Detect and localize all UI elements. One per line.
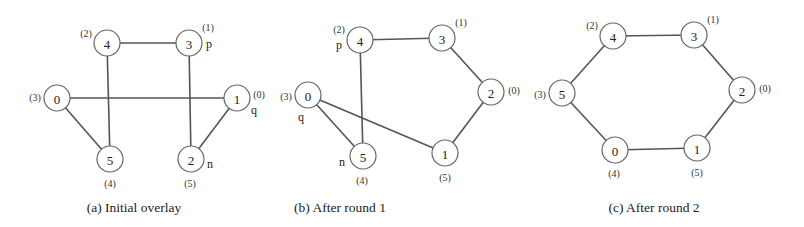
role-label: p [336, 38, 342, 52]
rank-label: (2) [333, 24, 345, 36]
node-id-label: 4 [610, 30, 617, 45]
node-id-label: 3 [439, 32, 446, 47]
node-id-label: 4 [104, 37, 111, 52]
node-id-label: 4 [357, 34, 364, 49]
overlay-diagram: 0(3)1(0)q2(5)n3(1)p4(2)5(4)(a) Initial o… [0, 0, 804, 227]
node-0: 0(3)q [280, 82, 321, 124]
node-1: 1(5) [432, 140, 458, 184]
node-2: 2(0) [729, 77, 771, 103]
rank-label: (4) [356, 175, 368, 187]
rank-label: (1) [202, 22, 214, 34]
panel-a: 0(3)1(0)q2(5)n3(1)p4(2)5(4)(a) Initial o… [29, 22, 265, 215]
node-0: 0(3) [29, 85, 70, 111]
rank-label: (1) [707, 14, 719, 26]
rank-label: (5) [184, 178, 196, 190]
panel-b: 0(3)q1(5)2(0)3(1)4(2)p5(4)n(b) After rou… [280, 17, 520, 215]
node-id-label: 0 [54, 92, 61, 107]
rank-label: (0) [253, 89, 265, 101]
node-id-label: 1 [234, 92, 241, 107]
role-label: n [207, 157, 213, 171]
node-5: 5(3) [534, 80, 575, 106]
edge-0-1 [308, 95, 445, 153]
rank-label: (5) [691, 167, 703, 179]
role-label: q [251, 103, 257, 117]
panel-caption: (a) Initial overlay [87, 200, 182, 215]
rank-label: (5) [439, 172, 451, 184]
rank-label: (3) [534, 89, 546, 101]
node-4: 4(2) [80, 28, 120, 57]
node-id-label: 3 [691, 29, 698, 44]
node-1: 1(5) [684, 135, 710, 179]
panel-caption: (b) After round 1 [294, 200, 386, 215]
panel-caption: (c) After round 2 [608, 200, 699, 215]
node-id-label: 2 [188, 153, 195, 168]
node-5: 5(4)n [339, 143, 376, 187]
node-id-label: 2 [739, 84, 746, 99]
rank-label: (4) [608, 168, 620, 180]
node-4: 4(2)p [333, 24, 373, 54]
node-2: 2(5)n [178, 146, 213, 190]
node-id-label: 0 [612, 144, 619, 159]
node-3: 3(1) [681, 14, 719, 49]
rank-label: (2) [586, 20, 598, 32]
edge-4-5 [360, 40, 363, 156]
rank-label: (3) [29, 92, 41, 104]
role-label: p [206, 37, 212, 51]
node-id-label: 1 [694, 142, 701, 157]
node-id-label: 3 [186, 37, 193, 52]
role-label: n [339, 155, 345, 169]
node-1: 1(0)q [224, 85, 265, 117]
node-3: 3(1) [429, 17, 467, 52]
node-5: 5(4) [97, 146, 123, 190]
node-id-label: 1 [442, 147, 449, 162]
rank-label: (1) [455, 17, 467, 29]
node-id-label: 5 [360, 150, 367, 165]
node-4: 4(2) [586, 20, 626, 50]
node-id-label: 5 [107, 153, 114, 168]
node-id-label: 5 [559, 87, 566, 102]
panel-c: 0(4)1(5)2(0)3(1)4(2)5(3)(c) After round … [534, 14, 771, 215]
role-label: q [298, 110, 304, 124]
node-3: 3(1)p [176, 22, 214, 57]
node-id-label: 2 [488, 86, 495, 101]
node-2: 2(0) [478, 79, 520, 105]
rank-label: (2) [80, 28, 92, 40]
edge-3-2 [189, 43, 191, 159]
rank-label: (0) [759, 83, 771, 95]
edge-4-5 [107, 43, 110, 159]
node-id-label: 0 [305, 89, 312, 104]
rank-label: (0) [508, 85, 520, 97]
node-0: 0(4) [602, 137, 628, 180]
rank-label: (4) [104, 178, 116, 190]
rank-label: (3) [280, 91, 292, 103]
